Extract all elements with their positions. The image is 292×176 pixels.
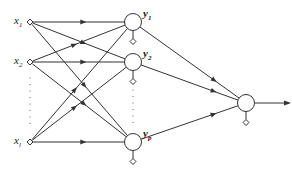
label-yp: yp: [143, 128, 151, 142]
input-ellipsis-dot: [29, 103, 30, 104]
label-y1: y1: [143, 8, 151, 22]
hidden-ellipsis-dot: [132, 115, 133, 116]
input-ellipsis-dot: [29, 123, 30, 124]
bias-diamond-icon: [130, 159, 136, 165]
input-node-x2: [27, 59, 33, 65]
input-ellipsis-dot: [29, 77, 30, 78]
neural-network-diagram: [0, 0, 292, 176]
input-node-x1: [27, 19, 33, 25]
label-xl: xl: [14, 135, 21, 149]
label-y2: y2: [143, 48, 151, 62]
input-ellipsis-dot: [29, 84, 30, 85]
hidden-neuron-y1: [125, 14, 142, 31]
label-subscript: l: [19, 141, 21, 149]
edge-x2-yp: [32, 64, 126, 137]
bias-diamond-icon: [130, 79, 136, 85]
arrowhead-icon: [80, 140, 86, 145]
edge-x2-y1: [33, 25, 125, 61]
arrowhead-icon: [210, 77, 216, 82]
label-subscript: p: [148, 134, 152, 142]
arrowhead-icon: [71, 44, 77, 48]
label-subscript: 1: [19, 21, 23, 29]
label-subscript: 1: [148, 14, 152, 22]
hidden-neuron-yp: [125, 134, 142, 151]
edge-xl-y2: [32, 67, 126, 140]
edge-y1-out: [140, 27, 239, 98]
arrowhead-icon: [80, 60, 86, 65]
edge-yp-out: [141, 106, 238, 139]
label-x2: x2: [14, 55, 22, 69]
arrowhead-icon: [71, 105, 77, 111]
input-node-xl: [27, 139, 33, 145]
arrowhead-icon: [210, 113, 216, 118]
output-arrow-icon: [284, 100, 291, 105]
bias-diamond-icon: [243, 120, 249, 126]
arrowhead-icon: [210, 88, 216, 93]
edge-y2-out: [141, 65, 238, 100]
bias-diamond-icon: [130, 39, 136, 45]
output-neuron: [238, 95, 255, 112]
hidden-ellipsis-dot: [132, 89, 133, 90]
input-ellipsis-dot: [29, 90, 30, 91]
connection-edges: [32, 22, 289, 142]
input-ellipsis-dot: [29, 97, 30, 98]
hidden-neuron-y2: [125, 54, 142, 71]
input-ellipsis-dot: [29, 110, 30, 111]
hidden-ellipsis-dot: [132, 96, 133, 97]
arrowhead-icon: [80, 100, 86, 106]
edge-xl-y1: [32, 28, 128, 139]
input-ellipsis-dot: [29, 116, 30, 117]
hidden-ellipsis-dot: [132, 109, 133, 110]
label-subscript: 2: [148, 54, 152, 62]
arrowhead-icon: [80, 20, 86, 25]
label-x1: x1: [14, 15, 22, 29]
label-subscript: 2: [19, 61, 23, 69]
hidden-ellipsis-dot: [132, 122, 133, 123]
hidden-ellipsis-dot: [132, 102, 133, 103]
